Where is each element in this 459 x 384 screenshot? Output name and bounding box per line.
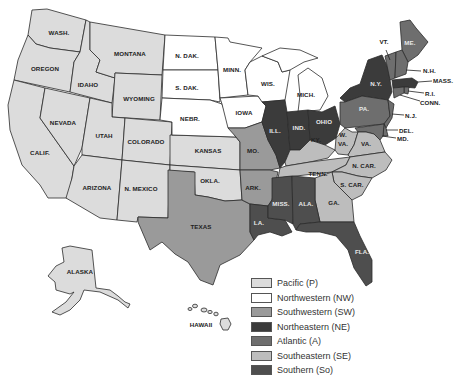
label-nj: N.J.: [405, 112, 417, 119]
legend-item-pacific: Pacific (P): [251, 276, 355, 291]
label-scar: S. CAR.: [340, 181, 364, 188]
legend-item-southern: Southern (So): [251, 363, 355, 378]
label-wash: WASH.: [49, 29, 70, 36]
label-nevada: NEVADA: [50, 119, 77, 126]
legend-label: Southwestern (SW): [277, 307, 355, 317]
label-wva-1: W.: [339, 131, 347, 138]
state-ny: [340, 55, 392, 102]
label-mass: MASS.: [433, 77, 453, 84]
legend-item-northwestern: Northwestern (NW): [251, 291, 355, 306]
label-nmexico: N. MEXICO: [124, 185, 157, 192]
legend-item-southwestern: Southwestern (SW): [251, 305, 355, 320]
state-pa: [340, 96, 390, 128]
label-ind: IND.: [293, 124, 306, 131]
legend-swatch-southern: [251, 365, 272, 375]
label-nh: N.H.: [423, 67, 436, 74]
label-sdak: S. DAK.: [175, 84, 199, 91]
label-ga: GA.: [328, 199, 339, 206]
state-alaska: [48, 246, 130, 315]
label-miss: MISS.: [272, 200, 290, 207]
label-conn: CONN.: [420, 99, 441, 106]
label-wva-2: VA.: [338, 140, 348, 147]
label-texas: TEXAS: [190, 223, 211, 230]
label-va: VA.: [361, 140, 371, 147]
label-calif: CALIF.: [30, 149, 50, 156]
label-ri: R.I.: [425, 90, 435, 97]
label-ark: ARK.: [245, 184, 261, 191]
label-hawaii: HAWAII: [190, 321, 213, 328]
label-md: MD.: [397, 135, 409, 142]
label-la: LA.: [254, 219, 264, 226]
label-arizona: ARIZONA: [83, 184, 112, 191]
label-me: ME.: [404, 39, 415, 46]
label-tenn: TENN.: [308, 170, 327, 177]
legend-swatch-northwestern: [251, 293, 272, 303]
label-kansas: KANSAS: [195, 147, 222, 154]
label-ndak: N. DAK.: [175, 52, 199, 59]
label-mo: MO.: [247, 147, 259, 154]
label-montana: MONTANA: [114, 50, 146, 57]
legend-label: Southern (So): [277, 365, 333, 375]
label-ky: KY.: [311, 136, 321, 143]
label-ny: N.Y.: [370, 80, 382, 87]
label-alaska: ALASKA: [67, 268, 94, 275]
state-ri: [404, 87, 409, 94]
map-legend: Pacific (P) Northwestern (NW) Southweste…: [251, 276, 355, 378]
legend-swatch-northeastern: [251, 322, 272, 332]
legend-item-northeastern: Northeastern (NE): [251, 320, 355, 335]
label-iowa: IOWA: [236, 109, 253, 116]
legend-swatch-southeastern: [251, 351, 272, 361]
label-del: DEL.: [399, 127, 414, 134]
label-utah: UTAH: [95, 132, 113, 139]
label-okla: OKLA.: [200, 177, 220, 184]
label-mich: MICH.: [297, 91, 315, 98]
label-idaho: IDAHO: [78, 81, 99, 88]
label-ala: ALA.: [299, 200, 314, 207]
label-nebr: NEBR.: [180, 115, 200, 122]
legend-label: Pacific (P): [277, 278, 318, 288]
legend-label: Southeastern (SE): [277, 351, 351, 361]
label-ill: ILL.: [269, 127, 281, 134]
legend-swatch-pacific: [251, 278, 272, 288]
legend-item-southeastern: Southeastern (SE): [251, 349, 355, 364]
legend-label: Atlantic (A): [277, 336, 321, 346]
label-minn: MINN.: [223, 66, 241, 73]
state-mass: [392, 78, 418, 88]
label-wyoming: WYOMING: [123, 95, 155, 102]
label-wis: WIS.: [261, 80, 275, 87]
label-colorado: COLORADO: [128, 138, 165, 145]
legend-label: Northwestern (NW): [277, 293, 354, 303]
label-oregon: OREGON: [31, 65, 60, 72]
legend-item-atlantic: Atlantic (A): [251, 334, 355, 349]
us-regions-map: WASH. OREGON CALIF. IDAHO NEVADA MONTANA…: [0, 0, 459, 384]
label-fla: FLA.: [355, 248, 369, 255]
label-ohio: OHIO: [316, 118, 332, 125]
state-conn: [393, 87, 404, 98]
legend-swatch-atlantic: [251, 336, 272, 346]
legend-label: Northeastern (NE): [277, 322, 350, 332]
legend-swatch-southwestern: [251, 307, 272, 317]
label-vt: VT.: [379, 38, 388, 45]
label-pa: PA.: [359, 105, 369, 112]
label-ncar: N. CAR.: [352, 162, 376, 169]
